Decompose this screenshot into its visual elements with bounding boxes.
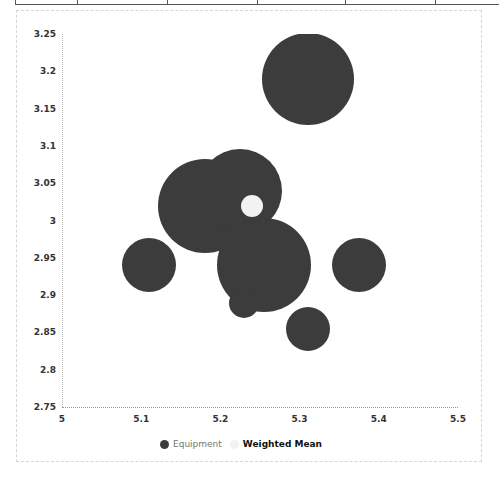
equipment-bubble [229, 288, 259, 318]
plot-area [62, 34, 458, 407]
legend-label-equipment: Equipment [173, 439, 222, 449]
y-tick-label: 3.2 [20, 66, 56, 76]
table-divider [345, 0, 346, 4]
equipment-bubble [332, 238, 386, 292]
x-tick-label: 5.1 [126, 414, 156, 424]
legend-label-weighted-mean: Weighted Mean [243, 439, 322, 449]
legend-item-equipment: Equipment [160, 439, 222, 449]
table-divider [77, 0, 78, 4]
weighted-mean-marker [241, 195, 263, 217]
y-tick-label: 3.25 [20, 29, 56, 39]
y-tick-label: 2.8 [20, 365, 56, 375]
x-tick-label: 5 [47, 414, 77, 424]
x-tick-label: 5.3 [285, 414, 315, 424]
x-tick-label: 5.4 [364, 414, 394, 424]
y-tick-label: 3.1 [20, 141, 56, 151]
x-tick-label: 5.5 [443, 414, 473, 424]
y-tick-label: 3 [20, 216, 56, 226]
table-divider [167, 0, 168, 4]
equipment-bubble [262, 34, 354, 125]
y-tick-label: 2.95 [20, 253, 56, 263]
equipment-bubble [286, 307, 330, 351]
table-divider [15, 0, 16, 4]
y-tick-label: 3.15 [20, 104, 56, 114]
equipment-bubble [122, 238, 176, 292]
x-tick-label: 5.2 [205, 414, 235, 424]
y-tick-label: 2.9 [20, 290, 56, 300]
y-tick-label: 3.05 [20, 178, 56, 188]
chart-legend: Equipment Weighted Mean [160, 437, 330, 451]
table-bottom-edge [15, 0, 499, 5]
equipment-circle-icon [160, 440, 169, 449]
table-divider [435, 0, 436, 4]
x-axis [62, 407, 458, 408]
y-tick-label: 2.75 [20, 402, 56, 412]
weighted-mean-circle-icon [230, 440, 239, 449]
table-divider [257, 0, 258, 4]
legend-item-weighted-mean: Weighted Mean [230, 439, 322, 449]
y-tick-label: 2.85 [20, 327, 56, 337]
